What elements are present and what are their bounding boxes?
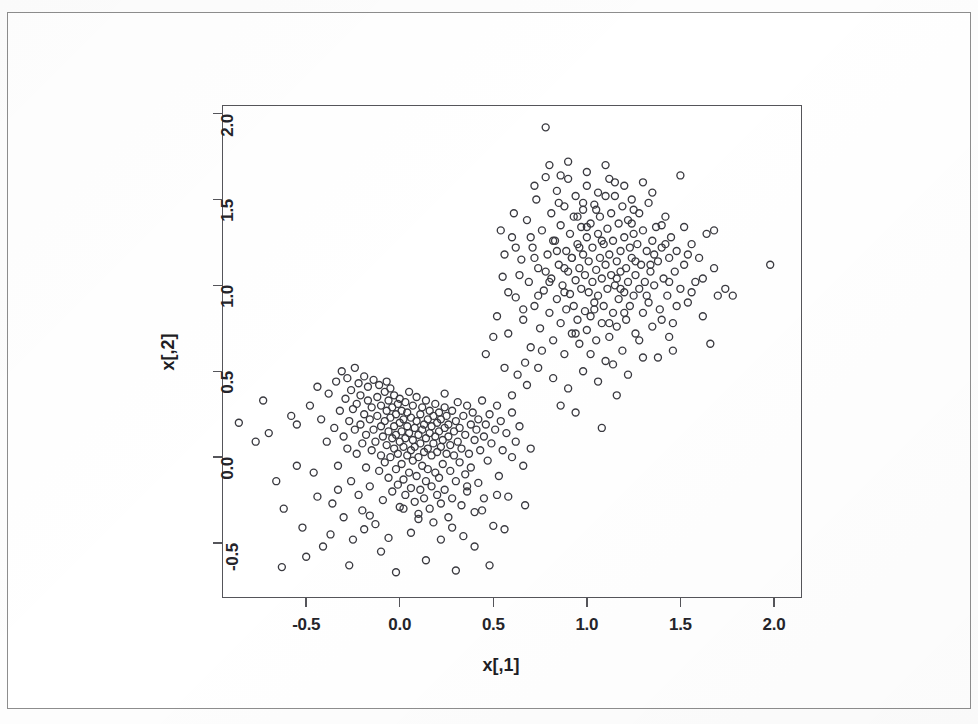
scatter-point — [516, 423, 523, 430]
scatter-point — [512, 438, 519, 445]
scatter-point — [613, 275, 620, 282]
scatter-point — [428, 483, 435, 490]
scatter-point — [580, 206, 587, 213]
scatter-point — [662, 213, 669, 220]
scatter-point — [497, 418, 504, 425]
x-tick — [773, 598, 774, 607]
scatter-point — [432, 400, 439, 407]
scatter-point — [523, 217, 530, 224]
scatter-point — [557, 320, 564, 327]
scatter-point — [568, 254, 575, 261]
scatter-point — [565, 385, 572, 392]
scatter-point — [325, 390, 332, 397]
scatter-point — [383, 378, 390, 385]
scatter-point — [621, 234, 628, 241]
scatter-point — [462, 431, 469, 438]
scatter-point — [430, 519, 437, 526]
scatter-point — [344, 445, 351, 452]
scatter-point — [359, 507, 366, 514]
scatter-point — [722, 285, 729, 292]
scatter-point — [537, 325, 544, 332]
scatter-point — [535, 364, 542, 371]
scatter-point — [514, 371, 521, 378]
y-tick-label: -0.5 — [223, 543, 243, 571]
scatter-point — [611, 193, 618, 200]
scatter-point — [606, 251, 613, 258]
scatter-point — [604, 285, 611, 292]
scatter-point — [374, 394, 381, 401]
scatter-point — [329, 500, 336, 507]
y-axis-label: x[,2] — [158, 333, 179, 370]
scatter-point — [494, 402, 501, 409]
scatter-point — [475, 416, 482, 423]
scatter-point — [477, 447, 484, 454]
scatter-point — [595, 189, 602, 196]
scatter-point — [639, 309, 646, 316]
scatter-point — [310, 469, 317, 476]
scatter-point — [658, 316, 665, 323]
scatter-point — [613, 258, 620, 265]
x-tick-label: 0.0 — [388, 615, 411, 635]
x-tick — [493, 598, 494, 607]
scatter-point — [327, 531, 334, 538]
scatter-point — [379, 497, 386, 504]
scatter-point — [385, 534, 392, 541]
scatter-point — [342, 395, 349, 402]
scatter-point — [378, 548, 385, 555]
scatter-point — [314, 493, 321, 500]
y-tick-label: 0.0 — [218, 457, 238, 480]
scatter-point — [527, 445, 534, 452]
x-tick-label: 1.0 — [575, 615, 598, 635]
scatter-point — [621, 309, 628, 316]
scatter-point — [610, 309, 617, 316]
scatter-point — [357, 392, 364, 399]
scatter-point — [306, 402, 313, 409]
scatter-point — [488, 440, 495, 447]
scatter-point — [563, 248, 570, 255]
scatter-point — [437, 500, 444, 507]
scatter-point — [544, 251, 551, 258]
scatter-point — [516, 272, 523, 279]
scatter-point — [714, 292, 721, 299]
scatter-point — [520, 462, 527, 469]
scatter-point — [606, 320, 613, 327]
scatter-point — [602, 357, 609, 364]
scatter-point — [278, 564, 285, 571]
scatter-point — [400, 443, 407, 450]
scatter-point — [621, 182, 628, 189]
scatter-point — [361, 526, 368, 533]
scatter-points-layer — [222, 105, 802, 598]
scatter-point — [406, 469, 413, 476]
scatter-point — [449, 495, 456, 502]
scatter-point — [647, 261, 654, 268]
scatter-point — [413, 418, 420, 425]
scatter-series-cluster-2 — [482, 124, 773, 432]
scatter-point — [557, 222, 564, 229]
scatter-point — [303, 553, 310, 560]
scatter-point — [535, 292, 542, 299]
scatter-point — [649, 323, 656, 330]
scatter-point — [340, 514, 347, 521]
scatter-point — [456, 424, 463, 431]
scatter-point — [413, 473, 420, 480]
scatter-point — [503, 430, 510, 437]
scatter-point — [531, 254, 538, 261]
scatter-point — [389, 488, 396, 495]
scatter-point — [625, 278, 632, 285]
scatter-point — [542, 124, 549, 131]
scatter-point — [441, 486, 448, 493]
scatter-point — [643, 292, 650, 299]
scatter-point — [602, 162, 609, 169]
scatter-point — [668, 234, 675, 241]
scatter-point — [349, 536, 356, 543]
scatter-point — [580, 199, 587, 206]
scatter-point — [509, 234, 516, 241]
x-tick — [305, 598, 306, 607]
scatter-point — [673, 302, 680, 309]
scatter-point — [587, 351, 594, 358]
scatter-point — [645, 199, 652, 206]
scatter-point — [535, 265, 542, 272]
scatter-point — [409, 402, 416, 409]
scatter-point — [572, 409, 579, 416]
scatter-point — [589, 278, 596, 285]
